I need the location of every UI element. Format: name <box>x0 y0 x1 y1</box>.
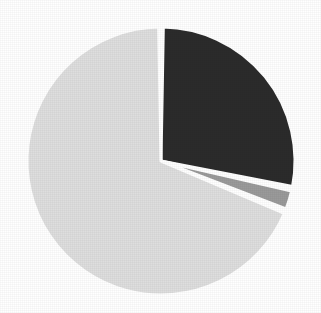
pie-slice[interactable] <box>161 27 295 187</box>
pie-chart-plot-area <box>0 0 321 313</box>
pie-slice-group <box>27 27 295 295</box>
pie-chart-figure <box>0 0 321 313</box>
pie-chart-svg <box>0 0 321 313</box>
